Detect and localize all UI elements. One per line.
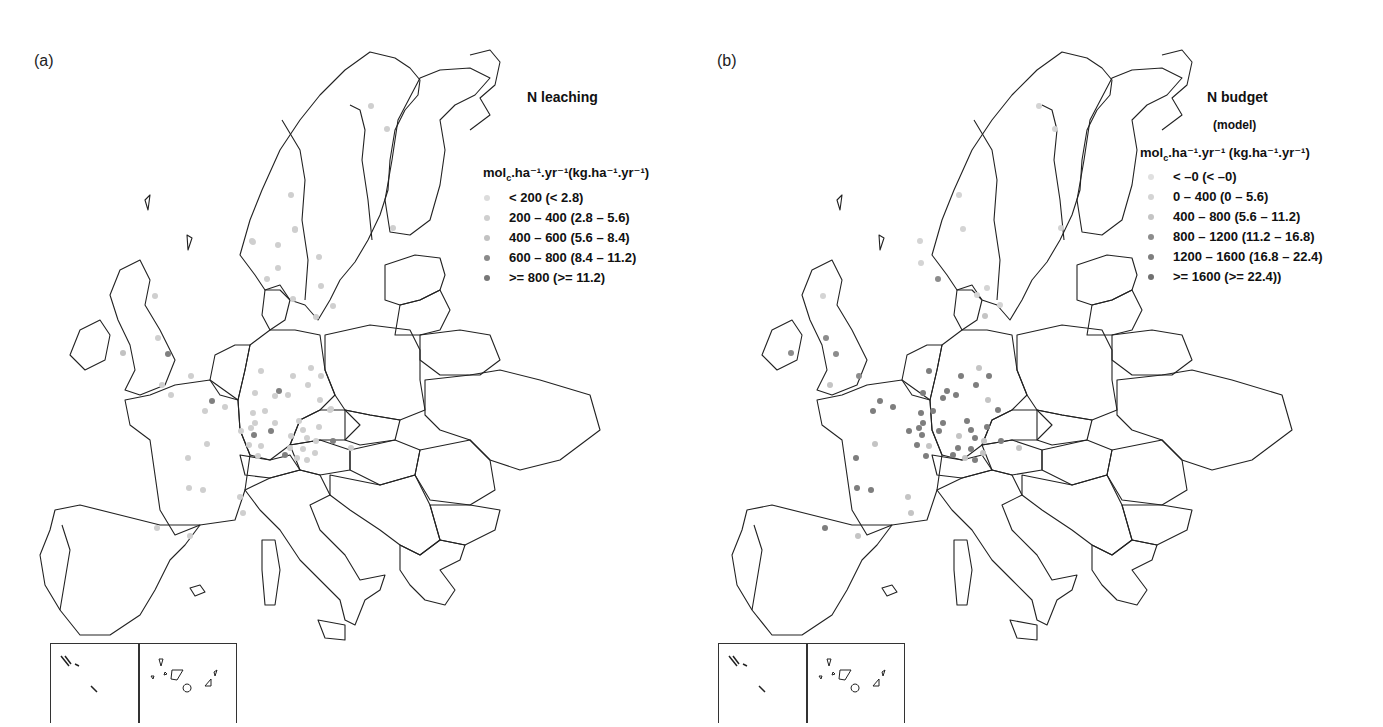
legend-items: < –0 (< –0) 0 – 400 (0 – 5.6) 400 – 800 … bbox=[1145, 167, 1323, 287]
site-dot bbox=[827, 382, 833, 388]
site-dot bbox=[980, 450, 986, 456]
site-dot bbox=[930, 408, 936, 414]
site-dot bbox=[908, 510, 914, 516]
site-dot bbox=[995, 407, 1001, 413]
site-dot bbox=[1052, 126, 1058, 132]
site-dot bbox=[285, 392, 291, 398]
europe-map-outline bbox=[0, 0, 691, 722]
site-dot bbox=[268, 428, 274, 434]
site-dot bbox=[250, 239, 256, 245]
site-dot bbox=[1016, 445, 1022, 451]
site-dot bbox=[262, 408, 268, 414]
site-dot bbox=[958, 373, 964, 379]
site-dot bbox=[923, 453, 929, 459]
site-dot bbox=[305, 382, 311, 388]
site-dot bbox=[960, 226, 966, 232]
site-dot bbox=[1058, 225, 1064, 231]
site-dot bbox=[304, 457, 310, 463]
legend-item: 1200 – 1600 (16.8 – 22.4) bbox=[1145, 247, 1323, 267]
site-dot bbox=[918, 260, 924, 266]
site-dot bbox=[250, 410, 256, 416]
units-prefix: mol bbox=[1140, 145, 1163, 160]
site-dot bbox=[237, 494, 243, 500]
site-dot bbox=[287, 445, 293, 451]
site-dot bbox=[936, 428, 942, 434]
site-dot bbox=[940, 420, 946, 426]
site-dot bbox=[209, 398, 215, 404]
site-dot bbox=[238, 428, 244, 434]
legend-label: 1200 – 1600 (16.8 – 22.4) bbox=[1173, 249, 1323, 264]
site-dot bbox=[935, 276, 941, 282]
site-dot bbox=[872, 441, 878, 447]
site-dot bbox=[968, 427, 974, 433]
site-dot bbox=[186, 485, 192, 491]
azores-islands bbox=[719, 644, 807, 723]
site-dot bbox=[823, 335, 829, 341]
site-dot bbox=[390, 225, 396, 231]
site-dot bbox=[304, 435, 310, 441]
swatch-dot-icon bbox=[484, 235, 490, 241]
site-dot bbox=[188, 373, 194, 379]
legend-item: 400 – 800 (5.6 – 11.2) bbox=[1145, 207, 1323, 227]
swatch-dot-icon bbox=[1148, 194, 1154, 200]
inset-azores bbox=[50, 643, 140, 723]
swatch-dot-icon bbox=[1148, 274, 1154, 280]
legend-label: 800 – 1200 (11.2 – 16.8) bbox=[1173, 229, 1315, 244]
site-dot bbox=[998, 438, 1004, 444]
legend-item: < –0 (< –0) bbox=[1145, 167, 1323, 187]
site-dot bbox=[917, 238, 923, 244]
site-dot bbox=[288, 192, 294, 198]
site-dot bbox=[258, 368, 264, 374]
site-dot bbox=[788, 350, 794, 356]
site-dot bbox=[318, 373, 324, 379]
site-dot bbox=[856, 373, 862, 379]
legend-subtitle: (model) bbox=[1213, 118, 1256, 132]
site-dot bbox=[318, 283, 324, 289]
site-dot bbox=[264, 276, 270, 282]
legend-label: 400 – 800 (5.6 – 11.2) bbox=[1173, 209, 1300, 224]
legend-item: 800 – 1200 (11.2 – 16.8) bbox=[1145, 227, 1323, 247]
site-dot bbox=[313, 438, 319, 444]
legend-item: 0 – 400 (0 – 5.6) bbox=[1145, 187, 1323, 207]
swatch-dot-icon bbox=[1148, 214, 1154, 220]
site-dot bbox=[985, 397, 991, 403]
legend-items: < 200 (< 2.8) 200 – 400 (2.8 – 5.6) 400 … bbox=[481, 188, 636, 288]
site-dot bbox=[953, 392, 959, 398]
site-dot bbox=[251, 432, 257, 438]
site-dot bbox=[272, 420, 278, 426]
units-text: .ha⁻¹.yr⁻¹ (kg.ha⁻¹.yr⁻¹) bbox=[1168, 145, 1310, 160]
site-dot bbox=[981, 438, 987, 444]
site-dot bbox=[976, 365, 982, 371]
site-dot bbox=[956, 433, 962, 439]
site-dot bbox=[152, 293, 158, 299]
legend-units: molc.ha⁻¹.yr⁻¹(kg.ha⁻¹.yr⁻¹) bbox=[483, 165, 649, 183]
site-dot bbox=[906, 428, 912, 434]
site-dot bbox=[328, 406, 334, 412]
site-dot bbox=[384, 126, 390, 132]
site-dot bbox=[187, 533, 193, 539]
site-dot bbox=[330, 438, 336, 444]
site-dot bbox=[165, 351, 171, 357]
legend-title: N leaching bbox=[527, 89, 598, 105]
site-dot bbox=[255, 453, 261, 459]
legend-label: 0 – 400 (0 – 5.6) bbox=[1173, 189, 1268, 204]
site-dot bbox=[154, 525, 160, 531]
swatch-dot-icon bbox=[484, 215, 490, 221]
canary-islands bbox=[139, 644, 236, 723]
site-dot bbox=[972, 435, 978, 441]
site-dot bbox=[962, 455, 968, 461]
site-dot bbox=[1036, 103, 1042, 109]
legend-title: N budget bbox=[1207, 89, 1268, 105]
site-dot bbox=[972, 457, 978, 463]
site-dot bbox=[854, 485, 860, 491]
site-dot bbox=[185, 455, 191, 461]
site-dot bbox=[294, 455, 300, 461]
site-dot bbox=[258, 443, 264, 449]
site-dot bbox=[870, 408, 876, 414]
site-dot bbox=[997, 302, 1003, 308]
legend-label: >= 1600 (>= 22.4)) bbox=[1173, 269, 1281, 284]
site-dot bbox=[313, 314, 319, 320]
site-dot bbox=[868, 487, 874, 493]
site-dot bbox=[820, 293, 826, 299]
site-dot bbox=[120, 350, 126, 356]
